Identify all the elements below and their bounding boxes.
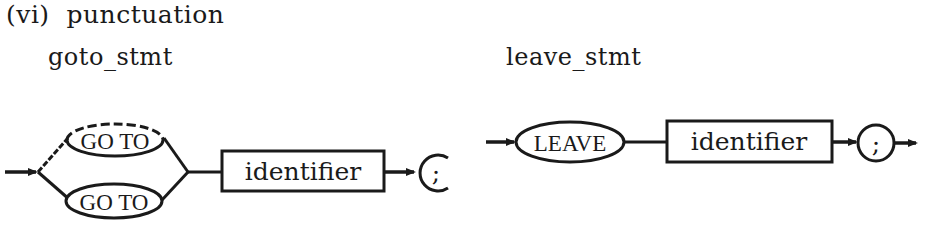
goto-keyword-upper: GO TO — [81, 129, 150, 154]
goto-identifier-label: identifier — [245, 157, 361, 186]
leave-keyword: LEAVE — [534, 131, 606, 156]
goto-identifier-box: identifier — [222, 151, 384, 191]
leave-stmt-diagram: LEAVE identifier ; — [486, 121, 916, 162]
leave-semicolon-circle: ; — [858, 125, 894, 161]
goto-keyword-optional-oval: GO TO — [67, 124, 163, 156]
leave-semicolon: ; — [872, 129, 880, 158]
leave-keyword-oval: LEAVE — [516, 122, 624, 162]
leave-identifier-box: identifier — [667, 121, 832, 162]
goto-keyword-lower: GO TO — [80, 190, 149, 215]
goto-stmt-diagram: GO TO GO TO identifier ; — [5, 124, 448, 218]
syntax-diagrams: GO TO GO TO identifier ; LEAVE — [0, 0, 925, 227]
goto-semicolon: ; — [432, 158, 440, 187]
leave-identifier-label: identifier — [691, 127, 807, 156]
goto-keyword-oval: GO TO — [66, 184, 162, 218]
goto-semicolon-circle: ; — [420, 155, 448, 191]
